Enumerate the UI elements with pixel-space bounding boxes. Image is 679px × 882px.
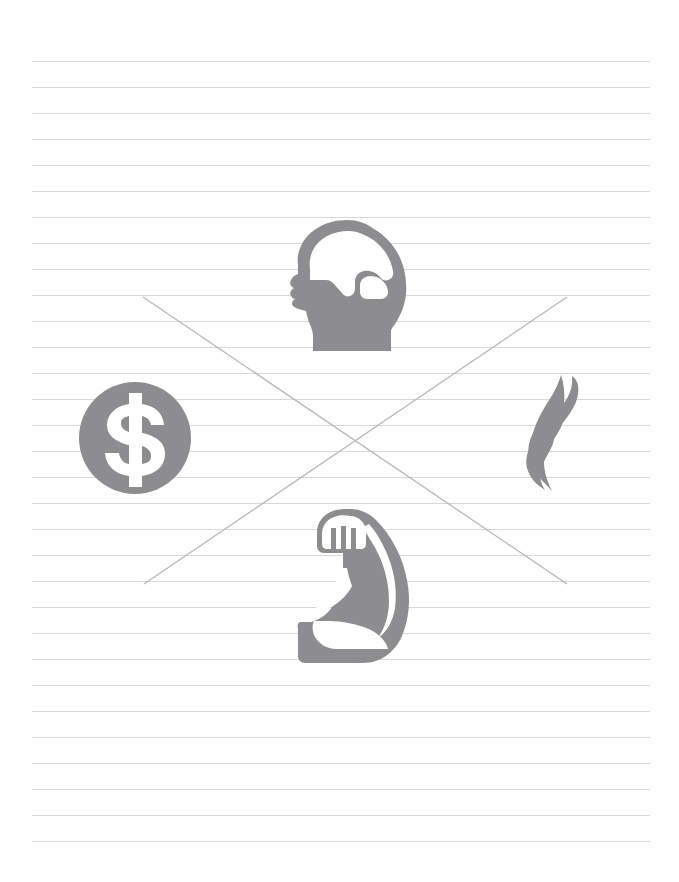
notebook-page	[0, 0, 679, 882]
flexed-bicep-icon	[297, 508, 412, 668]
brain-head-icon	[285, 218, 410, 353]
flame-icon	[528, 374, 586, 494]
dollar-circle-icon	[78, 381, 192, 495]
flame-tongue-inner	[526, 423, 554, 490]
